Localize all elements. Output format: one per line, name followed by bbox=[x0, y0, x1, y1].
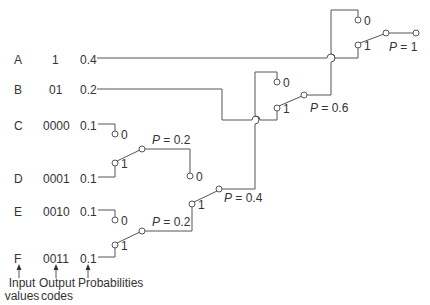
wire-d bbox=[98, 166, 115, 177]
wire-e bbox=[98, 210, 115, 217]
svg-text:P = 0.2: P = 0.2 bbox=[152, 133, 191, 147]
root-output bbox=[413, 30, 419, 36]
svg-text:0: 0 bbox=[196, 170, 203, 184]
svg-text:P = 0.4: P = 0.4 bbox=[224, 191, 263, 205]
wire-f bbox=[98, 248, 115, 257]
node-ef bbox=[139, 228, 145, 234]
svg-text:P = 0.2: P = 0.2 bbox=[152, 215, 191, 229]
huffman-switch-diagram: 0 1 P = 0.2 0 0 1 P = 0.2 1 P = 0.4 0 1 … bbox=[0, 0, 430, 305]
wire-b bbox=[97, 89, 277, 120]
svg-text:P = 0.6: P = 0.6 bbox=[310, 101, 349, 115]
node-bcdef bbox=[301, 92, 307, 98]
node-cdef bbox=[216, 186, 222, 192]
switch-c-0 bbox=[112, 131, 118, 137]
caption-arrows bbox=[17, 264, 91, 278]
svg-text:0: 0 bbox=[364, 14, 371, 28]
svg-text:0: 0 bbox=[121, 214, 128, 228]
node-cd bbox=[139, 146, 145, 152]
wire-a bbox=[97, 48, 358, 58]
svg-text:0: 0 bbox=[283, 76, 290, 90]
svg-text:0: 0 bbox=[121, 128, 128, 142]
node-root bbox=[383, 30, 389, 36]
svg-text:P = 1: P = 1 bbox=[389, 40, 418, 54]
wire-c bbox=[98, 124, 115, 131]
